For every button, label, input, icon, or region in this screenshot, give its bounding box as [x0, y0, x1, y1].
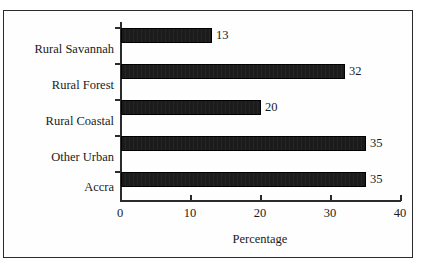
bar-value-rural-forest: 32 — [349, 64, 362, 79]
x-axis-tick-20 — [260, 195, 262, 201]
y-axis-tick — [115, 99, 120, 101]
x-axis-title: Percentage — [120, 232, 400, 247]
plot-area: 13 32 20 35 35 0 10 20 30 40 — [120, 22, 400, 200]
bar-rural-savannah — [121, 28, 212, 43]
x-tick-label-0: 0 — [105, 206, 135, 221]
x-tick-label-20: 20 — [245, 206, 275, 221]
x-tick-label-40: 40 — [385, 206, 415, 221]
category-label-rural-coastal: Rural Coastal — [46, 114, 114, 129]
y-axis-tick — [115, 27, 120, 29]
bar-value-accra: 35 — [370, 172, 383, 187]
bar-chart-figure: Rural Savannah Rural Forest Rural Coasta… — [0, 0, 421, 266]
bar-value-rural-savannah: 13 — [216, 28, 229, 43]
x-axis-tick-40 — [400, 195, 402, 201]
x-tick-label-30: 30 — [315, 206, 345, 221]
category-label-rural-savannah: Rural Savannah — [35, 42, 115, 57]
y-axis-tick — [115, 135, 120, 137]
category-label-other-urban: Other Urban — [51, 150, 114, 165]
cropped-title-remnant — [0, 0, 421, 7]
category-axis-labels: Rural Savannah Rural Forest Rural Coasta… — [8, 22, 114, 200]
bar-other-urban — [121, 136, 366, 151]
bar-value-rural-coastal: 20 — [265, 100, 278, 115]
bar-value-other-urban: 35 — [370, 136, 383, 151]
category-label-accra: Accra — [84, 180, 114, 195]
x-axis-tick-30 — [330, 195, 332, 201]
x-axis-tick-0 — [120, 195, 122, 201]
x-axis-tick-10 — [190, 195, 192, 201]
y-axis-tick — [115, 171, 120, 173]
y-axis-tick — [115, 63, 120, 65]
bar-rural-coastal — [121, 100, 261, 115]
x-tick-label-10: 10 — [175, 206, 205, 221]
bar-accra — [121, 172, 366, 187]
category-label-rural-forest: Rural Forest — [52, 78, 114, 93]
bar-rural-forest — [121, 64, 345, 79]
